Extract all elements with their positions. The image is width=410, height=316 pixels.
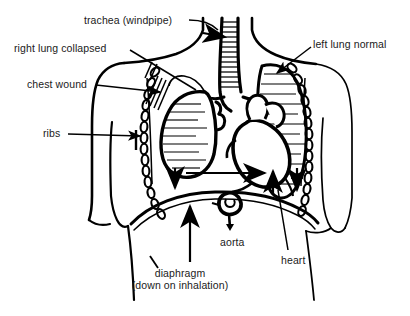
label-diaphragm-line2: (down on inhalation) <box>106 279 254 291</box>
label-right-lung: right lung collapsed <box>14 42 106 54</box>
diagram-figure: trachea (windpipe) right lung collapsed … <box>0 0 410 316</box>
label-chest-wound: chest wound <box>27 78 87 90</box>
label-aorta: aorta <box>220 236 244 248</box>
label-heart: heart <box>281 254 305 266</box>
label-diaphragm: diaphragm (down on inhalation) <box>106 267 254 291</box>
label-diaphragm-line1: diaphragm <box>106 267 254 279</box>
label-ribs: ribs <box>43 127 60 139</box>
label-left-lung: left lung normal <box>313 38 386 50</box>
label-trachea: trachea (windpipe) <box>84 14 172 26</box>
